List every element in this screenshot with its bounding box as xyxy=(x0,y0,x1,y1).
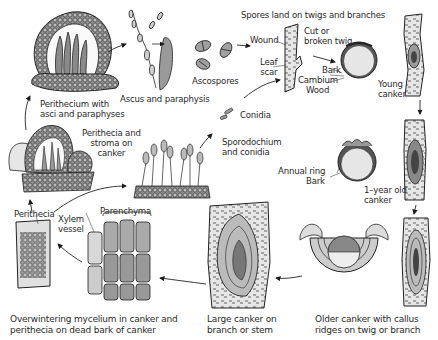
label-one-year-canker: 1–year old canker xyxy=(364,185,407,205)
perithecium-illustration xyxy=(32,12,119,92)
arrow-ascospores-to-wound xyxy=(237,45,250,46)
label-ascus: Ascus and paraphysis xyxy=(120,94,210,104)
disease-cycle-diagram xyxy=(0,0,438,340)
label-bark: Bark xyxy=(322,65,341,75)
twig-cross-section xyxy=(341,42,377,78)
label-parenchyma: Parenchyma xyxy=(100,206,151,216)
arrow-large-to-parenchyma xyxy=(160,278,206,284)
label-annual-ring: Annual ring xyxy=(278,166,325,176)
arrow-parenchyma-to-perithecia xyxy=(58,244,82,262)
label-cut-twig: Cut or broken twig xyxy=(304,26,352,46)
large-canker-illustration xyxy=(208,202,270,308)
arrow-1yr-to-older xyxy=(414,205,416,214)
label-young-canker: Young canker xyxy=(378,79,406,99)
young-canker-illustration xyxy=(404,14,424,96)
arrow-to-cross-section xyxy=(313,56,335,62)
label-older-canker: Older canker with callus ridges on twig … xyxy=(315,314,420,336)
parenchyma-illustration xyxy=(88,212,151,300)
sporodochium-illustration xyxy=(134,140,210,198)
label-bark-2: Bark xyxy=(306,176,325,186)
ascospores-illustration xyxy=(194,39,235,72)
label-perithecium: Perithecium with asci and paraphyses xyxy=(40,99,124,119)
older-canker-vertical xyxy=(402,218,430,306)
annual-ring-cross-section xyxy=(338,140,376,182)
ascus-illustration xyxy=(129,10,173,90)
label-spores-land: Spores land on twigs and branches xyxy=(241,10,385,20)
arrow-older-to-large xyxy=(276,276,302,278)
label-large-canker: Large canker on branch or stem xyxy=(207,314,277,336)
label-conidia: Conidia xyxy=(240,110,271,120)
arrow-sporodochium-to-conidia xyxy=(200,134,212,148)
label-sporodochium: Sporodochium and conidia xyxy=(222,137,281,157)
label-perithecia-stroma: Perithecia and stroma on canker xyxy=(82,128,141,158)
dead-bark-perithecia xyxy=(16,220,50,288)
label-cambium: Cambium xyxy=(298,75,338,85)
label-wound: Wound xyxy=(250,35,279,45)
older-canker-cross-section xyxy=(300,224,388,272)
label-ascospores: Ascospores xyxy=(192,76,239,86)
label-leaf-scar: Leaf scar xyxy=(260,57,277,77)
conidia-illustration xyxy=(220,108,233,120)
label-wood: Wood xyxy=(306,85,329,95)
arrow-conidia-to-twig xyxy=(244,80,280,98)
label-xylem: Xylem vessel xyxy=(58,214,84,234)
label-perithecia: Perithecia xyxy=(14,209,55,219)
one-year-canker-illustration xyxy=(404,120,426,200)
label-overwintering: Overwintering mycelium in canker and per… xyxy=(10,314,178,336)
arrow-stroma-to-perithecium xyxy=(25,96,30,130)
